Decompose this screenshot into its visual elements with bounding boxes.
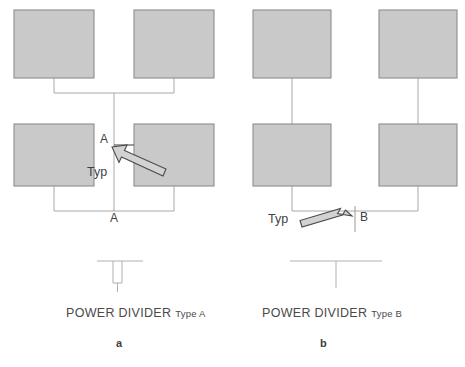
panel-b-section-label-bottom: B xyxy=(360,211,368,223)
panel-a-bottom-left-unit xyxy=(14,124,94,186)
panel-b-top-right-unit xyxy=(379,10,457,78)
panel-a-group xyxy=(14,10,214,211)
panel-b-bottom-left-unit xyxy=(253,124,331,186)
panel-a-caption-sub: Type A xyxy=(175,308,205,319)
symbol-power-divider-type-a xyxy=(97,261,143,292)
panel-b-callout-label: Typ xyxy=(268,213,288,226)
panel-a-section-label-bottom: A xyxy=(110,212,118,224)
symbol-a-stub-outline xyxy=(113,261,122,283)
panel-b-top-left-unit xyxy=(253,10,331,78)
panel-a-section-label-top: A xyxy=(100,133,108,145)
panel-a-top-right-unit xyxy=(134,10,214,78)
panel-b-caption-sub: Type B xyxy=(371,308,402,319)
panel-b-group xyxy=(253,10,457,232)
panel-b-index-label: b xyxy=(320,338,327,349)
panel-a-bottom-right-unit xyxy=(134,124,214,186)
panel-a-callout-label: Typ xyxy=(87,166,107,179)
panel-b-caption-main: POWER DIVIDER xyxy=(262,306,367,320)
panel-b-caption: POWER DIVIDER Type B xyxy=(262,306,402,320)
panel-a-index-label: a xyxy=(116,338,122,349)
symbol-power-divider-type-b xyxy=(290,261,382,288)
panel-a-top-left-unit xyxy=(14,10,94,78)
panel-b-bottom-right-unit xyxy=(379,124,457,186)
panel-a-caption: POWER DIVIDER Type A xyxy=(66,306,206,320)
panel-a-caption-main: POWER DIVIDER xyxy=(66,306,171,320)
figure-root: A A Typ B Typ POWER DIVIDER Type A POWER… xyxy=(0,0,465,367)
